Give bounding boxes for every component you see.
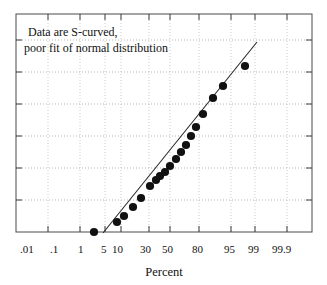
x-tick-label: .1 bbox=[50, 243, 58, 255]
x-tick-label: .01 bbox=[20, 243, 34, 255]
data-point bbox=[137, 194, 145, 202]
x-tick-label: 95 bbox=[224, 243, 236, 255]
x-tick-label: 80 bbox=[192, 243, 204, 255]
x-tick-label: 99 bbox=[248, 243, 260, 255]
data-point bbox=[192, 123, 200, 131]
data-point bbox=[146, 182, 154, 190]
data-point bbox=[187, 132, 195, 140]
x-tick-label: 99.9 bbox=[272, 243, 292, 255]
annotation-line-1: Data are S-curved, bbox=[28, 25, 118, 39]
x-tick-label: 30 bbox=[140, 243, 152, 255]
data-point bbox=[120, 212, 128, 220]
data-point bbox=[241, 62, 249, 70]
plot-canvas: Data are S-curved, poor fit of normal di… bbox=[0, 0, 327, 285]
data-point bbox=[113, 218, 121, 226]
annotation-line-2: poor fit of normal distribution bbox=[24, 41, 168, 55]
data-point bbox=[172, 155, 180, 163]
data-point bbox=[177, 148, 185, 156]
x-tick-label: 5 bbox=[101, 243, 107, 255]
data-point bbox=[90, 228, 98, 236]
data-point bbox=[199, 110, 207, 118]
data-point bbox=[219, 82, 227, 90]
data-point bbox=[182, 141, 190, 149]
x-tick-label: 1 bbox=[78, 243, 84, 255]
data-point bbox=[129, 203, 137, 211]
x-tick-label: 10 bbox=[112, 243, 124, 255]
data-point bbox=[209, 94, 217, 102]
x-axis-title: Percent bbox=[145, 265, 183, 279]
x-tick-label: 50 bbox=[162, 243, 174, 255]
probability-plot-figure: Data are S-curved, poor fit of normal di… bbox=[0, 0, 327, 285]
data-point bbox=[166, 162, 174, 170]
